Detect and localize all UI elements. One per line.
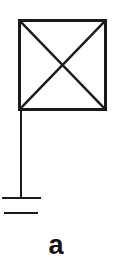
figure-panel: a [0, 0, 122, 265]
schematic-drawing [0, 0, 122, 265]
figure-caption-label: a [0, 230, 112, 260]
